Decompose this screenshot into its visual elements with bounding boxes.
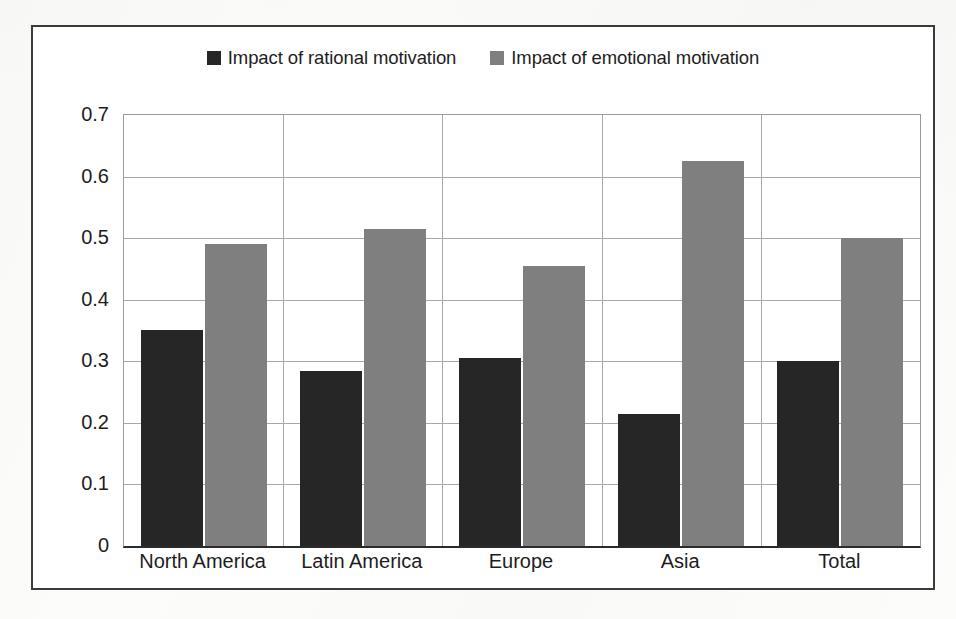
bar-asia-series-0[interactable] [618, 414, 680, 546]
legend-entry-0[interactable]: Impact of rational motivation [207, 47, 456, 69]
y-axis-tick-label: 0.1 [81, 472, 109, 495]
y-axis-tick-label: 0 [98, 534, 109, 557]
x-axis-tick-label: Latin America [301, 550, 422, 573]
bar-europe-series-0[interactable] [459, 358, 521, 546]
y-axis-tick-label: 0.2 [81, 410, 109, 433]
x-axis-tick-label: Asia [661, 550, 700, 573]
bar-total-series-1[interactable] [841, 238, 903, 546]
bar-latin-america-series-1[interactable] [364, 229, 426, 546]
x-axis-tick-label: North America [139, 550, 266, 573]
legend-swatch-rational-icon [207, 51, 221, 65]
x-axis-tick-label: Total [818, 550, 860, 573]
legend-label: Impact of emotional motivation [511, 47, 759, 69]
y-axis-tick-label: 0.4 [81, 287, 109, 310]
chart-legend: Impact of rational motivationImpact of e… [33, 47, 933, 69]
bar-europe-series-1[interactable] [523, 266, 585, 546]
legend-swatch-emotional-icon [490, 51, 504, 65]
chart-frame: Impact of rational motivationImpact of e… [31, 25, 935, 590]
legend-entry-1[interactable]: Impact of emotional motivation [490, 47, 759, 69]
bar-latin-america-series-0[interactable] [300, 371, 362, 546]
bar-total-series-0[interactable] [777, 361, 839, 546]
x-axis-category-labels: North AmericaLatin AmericaEuropeAsiaTota… [123, 550, 919, 590]
y-axis-tick-labels: 00.10.20.30.40.50.60.7 [33, 114, 109, 545]
bar-north-america-series-0[interactable] [141, 330, 203, 546]
bar-north-america-series-1[interactable] [205, 244, 267, 546]
legend-label: Impact of rational motivation [228, 47, 456, 69]
chart-figure: Impact of rational motivationImpact of e… [0, 0, 956, 619]
y-axis-tick-label: 0.3 [81, 349, 109, 372]
y-axis-tick-label: 0.5 [81, 226, 109, 249]
y-axis-tick-label: 0.7 [81, 103, 109, 126]
y-axis-tick-label: 0.6 [81, 164, 109, 187]
x-axis-tick-label: Europe [489, 550, 554, 573]
bars-layer [124, 115, 920, 546]
bar-asia-series-1[interactable] [682, 161, 744, 546]
plot-area [123, 114, 921, 548]
